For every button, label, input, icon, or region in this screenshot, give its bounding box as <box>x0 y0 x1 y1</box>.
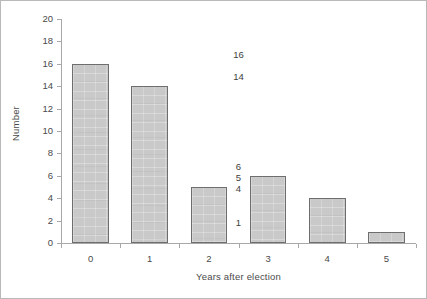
x-axis-tick-label: 1 <box>130 253 170 264</box>
bar-value-label: 6 <box>236 161 241 172</box>
bar <box>309 198 346 243</box>
x-axis-tick <box>120 244 121 248</box>
x-axis-tick-label: 5 <box>366 253 406 264</box>
x-axis-tick-label: 3 <box>248 253 288 264</box>
bar-value-label: 1 <box>236 217 241 228</box>
y-axis-tick-label: 14 <box>27 80 53 91</box>
bar <box>131 86 168 243</box>
y-axis-tick: 16 <box>57 64 61 65</box>
y-axis-tick: 18 <box>57 41 61 42</box>
x-axis-tick <box>357 244 358 248</box>
y-axis-tick: 4 <box>57 198 61 199</box>
y-axis-tick-label: 8 <box>27 147 53 158</box>
bar <box>368 232 405 243</box>
bar <box>72 64 109 243</box>
x-axis-tick-label: 2 <box>189 253 229 264</box>
y-axis-title: Number <box>7 1 23 246</box>
y-axis-title-text: Number <box>10 106 21 141</box>
y-axis-tick-label: 2 <box>27 215 53 226</box>
y-axis-tick-label: 12 <box>27 103 53 114</box>
y-axis-line <box>61 19 62 243</box>
y-axis-tick-label: 0 <box>27 237 53 248</box>
bar-chart-figure: Number 02468101214161820 012345 16145641… <box>0 0 427 299</box>
y-axis-tick: 12 <box>57 109 61 110</box>
x-axis-tick <box>61 244 62 248</box>
y-axis-tick-label: 20 <box>27 13 53 24</box>
bar-value-label: 16 <box>233 49 244 60</box>
y-axis-tick: 6 <box>57 176 61 177</box>
y-axis-tick: 14 <box>57 86 61 87</box>
y-axis-tick-label: 4 <box>27 192 53 203</box>
y-axis-tick-label: 16 <box>27 58 53 69</box>
plot-area: 02468101214161820 012345 16145641 <box>61 19 416 243</box>
y-axis-tick: 20 <box>57 19 61 20</box>
bar-value-label: 5 <box>236 172 241 183</box>
y-axis-tick-label: 10 <box>27 125 53 136</box>
y-axis-tick: 10 <box>57 131 61 132</box>
x-axis-tick <box>239 244 240 248</box>
x-axis-tick <box>179 244 180 248</box>
x-axis-tick <box>416 244 417 248</box>
x-axis-tick-label: 0 <box>71 253 111 264</box>
x-axis-title: Years after election <box>61 271 416 282</box>
y-axis-tick: 2 <box>57 221 61 222</box>
bar <box>250 176 287 243</box>
x-axis-tick-label: 4 <box>307 253 347 264</box>
y-axis-tick: 8 <box>57 153 61 154</box>
bar-value-label: 4 <box>236 183 241 194</box>
y-axis-tick-label: 6 <box>27 170 53 181</box>
x-axis-tick <box>298 244 299 248</box>
bar <box>191 187 228 243</box>
y-axis-tick-label: 18 <box>27 35 53 46</box>
bar-value-label: 14 <box>233 71 244 82</box>
